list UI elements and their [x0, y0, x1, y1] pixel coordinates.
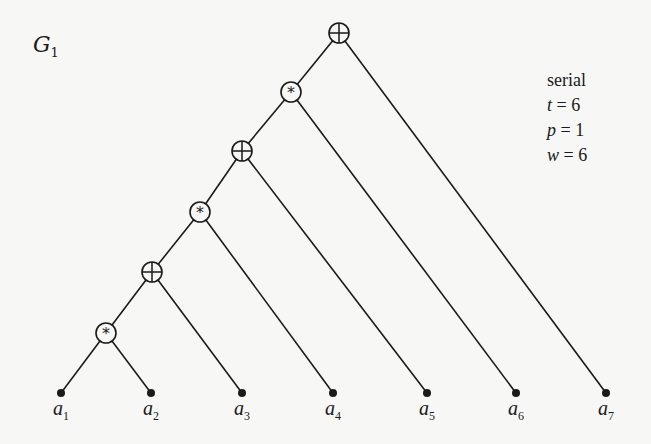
- leaf-dot: [423, 389, 431, 397]
- param-mode-label: serial: [547, 70, 586, 90]
- param-w-var: w: [547, 145, 559, 165]
- svg-text:*: *: [196, 203, 204, 222]
- svg-text:*: *: [287, 83, 295, 102]
- svg-text:*: *: [102, 324, 110, 343]
- param-t-var: t: [547, 95, 552, 115]
- plus-node-icon: [329, 23, 349, 43]
- param-t-value: = 6: [557, 95, 581, 115]
- tree-edge: [248, 159, 427, 393]
- leaf-dot: [147, 389, 155, 397]
- times-node-icon: *: [96, 323, 116, 343]
- leaf-label-a6: a6: [508, 397, 524, 424]
- tree-edge: [297, 100, 516, 393]
- graph-symbol: G: [33, 32, 51, 57]
- param-p: p = 1: [547, 118, 587, 143]
- times-node-icon: *: [190, 202, 210, 222]
- leaf-dot: [57, 389, 65, 397]
- param-p-var: p: [547, 120, 556, 140]
- param-w-value: = 6: [564, 145, 588, 165]
- graph-title: G1: [33, 32, 59, 60]
- leaf-dot: [512, 389, 520, 397]
- tree-edge: [112, 341, 151, 393]
- leaf-label-a2: a2: [143, 397, 159, 424]
- tree-edges: [61, 41, 606, 393]
- leaf-label-a3: a3: [234, 397, 250, 424]
- leaf-label-a4: a4: [325, 397, 341, 424]
- tree-edge: [158, 280, 242, 393]
- leaf-label-a1: a1: [53, 397, 69, 424]
- leaf-dot: [329, 389, 337, 397]
- tree-leaves: [57, 389, 610, 397]
- parameter-list: serial t = 6 p = 1 w = 6: [547, 68, 587, 168]
- param-mode: serial: [547, 68, 587, 93]
- plus-node-icon: [232, 141, 252, 161]
- param-w: w = 6: [547, 143, 587, 168]
- expression-tree: ***: [0, 0, 651, 444]
- times-node-icon: *: [281, 82, 301, 102]
- leaf-dot: [602, 389, 610, 397]
- leaf-dot: [238, 389, 246, 397]
- param-p-value: = 1: [561, 120, 585, 140]
- plus-node-icon: [142, 262, 162, 282]
- graph-subscript: 1: [51, 45, 59, 60]
- tree-edge: [61, 341, 100, 393]
- leaf-label-a7: a7: [598, 397, 614, 424]
- param-t: t = 6: [547, 93, 587, 118]
- leaf-label-a5: a5: [419, 397, 435, 424]
